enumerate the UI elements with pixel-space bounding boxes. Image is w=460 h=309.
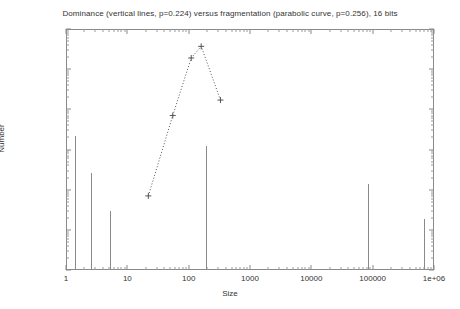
y-tick-mark-right [431, 191, 434, 192]
x-tick-mark-top [95, 29, 96, 32]
y-tick-mark [66, 238, 69, 239]
x-tick-mark-top [297, 29, 298, 32]
y-tick-mark-right [431, 201, 434, 202]
x-tick-mark [127, 265, 128, 270]
x-tick-mark-top [240, 29, 241, 32]
y-tick-mark-right [429, 189, 434, 190]
y-tick-mark-right [431, 44, 434, 45]
y-tick-mark [66, 165, 69, 166]
x-tick-mark-top [145, 29, 146, 32]
x-tick-mark [372, 265, 373, 270]
x-tick-mark-top [164, 29, 165, 32]
x-tick-mark-top [340, 29, 341, 32]
x-axis-label: Size [0, 289, 460, 298]
x-tick-mark-top [311, 29, 312, 34]
y-tick-mark [66, 250, 69, 251]
x-tick-mark [428, 267, 429, 270]
x-tick-mark-top [179, 29, 180, 32]
y-tick-mark [66, 75, 69, 76]
x-tick-mark-top [391, 29, 392, 32]
x-tick-mark [301, 267, 302, 270]
y-tick-mark [66, 155, 69, 156]
y-tick-mark [66, 198, 69, 199]
x-tick-mark [329, 267, 330, 270]
y-tick-mark [66, 245, 69, 246]
x-tick-mark [415, 267, 416, 270]
y-tick-mark [66, 71, 69, 72]
x-tick-mark-top [244, 29, 245, 32]
y-tick-mark-right [431, 78, 434, 79]
y-axis-label: Number [0, 124, 6, 152]
y-tick-mark [66, 115, 69, 116]
y-tick-mark [66, 195, 69, 196]
dominance-vertical-line [75, 136, 76, 270]
y-tick-mark-right [431, 71, 434, 72]
y-tick-mark-right [431, 153, 434, 154]
x-tick-mark-top [369, 29, 370, 32]
x-tick-mark-top [117, 29, 118, 32]
y-tick-mark [66, 270, 71, 271]
x-tick-label: 1 [64, 274, 68, 283]
y-tick-mark-right [431, 121, 434, 122]
y-tick-mark [66, 44, 69, 45]
x-tick-mark [420, 267, 421, 270]
x-tick-mark [117, 267, 118, 270]
x-tick-mark-top [247, 29, 248, 32]
y-tick-mark [66, 118, 69, 119]
y-tick-mark-right [431, 193, 434, 194]
x-tick-mark-top [424, 29, 425, 32]
x-tick-mark [124, 267, 125, 270]
x-tick-mark-top [231, 29, 232, 32]
x-tick-mark-top [359, 29, 360, 32]
y-tick-mark [66, 161, 69, 162]
y-tick-mark-right [431, 115, 434, 116]
y-tick-mark-right [431, 233, 434, 234]
x-tick-mark-top [236, 29, 237, 32]
y-tick-mark-right [431, 245, 434, 246]
y-tick-mark-right [431, 170, 434, 171]
y-tick-mark-right [431, 90, 434, 91]
x-tick-mark [84, 267, 85, 270]
y-tick-mark-right [431, 210, 434, 211]
y-tick-mark-right [431, 41, 434, 42]
x-tick-mark-top [348, 29, 349, 32]
x-tick-mark-top [401, 29, 402, 32]
x-tick-mark-top [250, 29, 251, 34]
y-tick-mark-right [431, 113, 434, 114]
x-tick-mark [297, 267, 298, 270]
y-tick-mark [66, 73, 69, 74]
x-tick-mark [366, 267, 367, 270]
x-tick-mark [409, 267, 410, 270]
x-tick-mark-top [102, 29, 103, 32]
x-tick-mark-top [366, 29, 367, 32]
y-tick-mark-right [431, 250, 434, 251]
y-tick-mark [66, 130, 69, 131]
x-tick-mark-top [188, 29, 189, 34]
x-tick-mark [113, 267, 114, 270]
x-tick-label: 1e+06 [423, 274, 445, 283]
y-tick-mark-right [431, 81, 434, 82]
x-tick-mark [431, 267, 432, 270]
y-tick-mark [66, 210, 69, 211]
x-tick-label: 10000 [300, 274, 322, 283]
x-tick-mark [250, 265, 251, 270]
x-tick-mark [354, 267, 355, 270]
y-tick-mark [66, 125, 69, 126]
y-tick-mark [66, 113, 69, 114]
x-tick-mark-top [207, 29, 208, 32]
x-tick-mark-top [431, 29, 432, 32]
plot-area [66, 29, 434, 270]
y-tick-mark-right [431, 37, 434, 38]
y-tick-mark [66, 241, 69, 242]
x-tick-mark-top [415, 29, 416, 32]
x-tick-mark [175, 267, 176, 270]
y-tick-mark [66, 217, 69, 218]
x-tick-mark-top [292, 29, 293, 32]
y-tick-mark-right [431, 125, 434, 126]
x-tick-mark [182, 267, 183, 270]
y-tick-mark-right [431, 231, 434, 232]
x-tick-mark-top [434, 29, 435, 34]
x-tick-mark-top [175, 29, 176, 32]
x-tick-mark [401, 267, 402, 270]
y-tick-mark [66, 236, 69, 237]
